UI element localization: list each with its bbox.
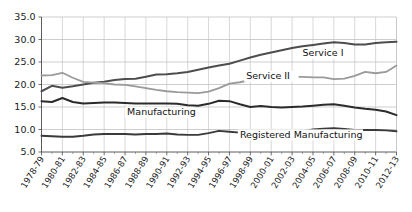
series-line-service-ii — [42, 66, 397, 93]
series-label-service-i: Service I — [303, 47, 344, 58]
x-axis-tick-labels: 1978-791980-811982-831984-851986-871988-… — [19, 154, 402, 190]
y-axis-tick-labels: 5.010.015.020.025.030.035.0 — [14, 11, 35, 157]
series-label-manufacturing: Manufacturing — [127, 106, 196, 117]
y-axis-tick-label: 10.0 — [14, 124, 35, 135]
y-axis-tick-label: 25.0 — [14, 56, 35, 67]
y-axis-tick-label: 35.0 — [14, 11, 35, 22]
series-inline-labels: Service IService IIManufacturingRegister… — [125, 47, 363, 140]
series-line-manufacturing — [42, 98, 397, 115]
series-label-registered-manufacturing: Registered Manufacturing — [240, 129, 363, 140]
grid-lines-horizontal — [42, 17, 397, 130]
y-axis-tick-label: 30.0 — [14, 34, 35, 45]
y-axis-tick-label: 15.0 — [14, 101, 35, 112]
y-axis-tick-label: 20.0 — [14, 79, 35, 90]
line-chart: 5.010.015.020.025.030.035.0 1978-791980-… — [0, 0, 412, 212]
series-label-service-ii: Service II — [246, 70, 290, 81]
y-axis-tick-label: 5.0 — [20, 146, 35, 157]
chart-canvas: 5.010.015.020.025.030.035.0 1978-791980-… — [0, 0, 412, 212]
